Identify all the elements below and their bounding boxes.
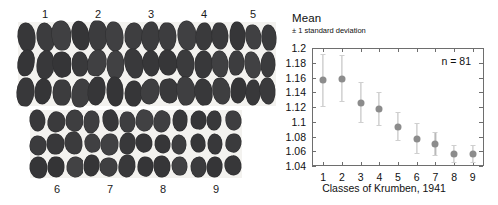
pebble [120, 112, 135, 132]
y-tick-label: 1.2 [270, 42, 306, 54]
pebble-group-7 [83, 110, 136, 178]
error-bar-cap-upper [452, 145, 457, 146]
pebble [207, 110, 222, 130]
x-tick-mark-top [435, 48, 436, 52]
y-tick-label: 1.16 [270, 72, 306, 84]
pebble [17, 49, 37, 77]
pebble [88, 20, 107, 50]
pebble [53, 80, 71, 106]
x-tick-mark-top [342, 48, 343, 52]
y-tick-mark-right [479, 92, 483, 93]
error-bar-cap-lower [321, 106, 326, 107]
y-tick-mark [312, 151, 316, 152]
error-bar-cap-upper [414, 123, 419, 124]
x-tick-mark-top [417, 48, 418, 52]
pebble [176, 50, 195, 78]
pebble [30, 136, 46, 155]
pebble [107, 50, 125, 79]
pebble-group-9 [189, 110, 242, 178]
error-bar-cap-lower [414, 153, 419, 154]
y-tick-label: 1.12 [270, 101, 306, 113]
pebble [86, 76, 107, 107]
x-tick-mark [323, 162, 324, 166]
y-tick-mark [312, 92, 316, 93]
error-bar-cap-upper [433, 132, 438, 133]
data-point [451, 151, 458, 158]
pebble [105, 22, 124, 52]
x-tick-mark [417, 162, 418, 166]
class-label-7: 7 [95, 183, 125, 195]
class-label-6: 6 [42, 183, 72, 195]
figure-root: 1 2 3 4 5 6 7 8 9 Mean ± 1 standard devi… [0, 0, 498, 205]
pebble [46, 111, 66, 134]
x-tick-mark [473, 162, 474, 166]
error-bar-cap-upper [396, 112, 401, 113]
pebble [245, 80, 260, 106]
pebble [194, 50, 212, 78]
y-tick-label: 1.14 [270, 86, 306, 98]
pebble [65, 110, 83, 132]
pebble-photo-panel: 1 2 3 4 5 6 7 8 9 [0, 0, 270, 205]
data-point [432, 140, 439, 147]
class-label-1: 1 [30, 8, 60, 20]
error-bar-cap-upper [339, 55, 344, 56]
pebble [107, 76, 124, 106]
x-tick-mark [361, 162, 362, 166]
y-tick-mark-right [479, 107, 483, 108]
x-tick-label: 8 [447, 171, 461, 183]
pebble [190, 111, 206, 131]
pebble [224, 110, 242, 131]
pebble [101, 109, 119, 132]
pebble [153, 110, 173, 134]
pebble [48, 157, 65, 177]
error-bar-cap-lower [452, 162, 457, 163]
y-tick-mark [312, 166, 316, 167]
pebble [153, 156, 171, 178]
pebble [158, 22, 176, 50]
data-point [338, 75, 345, 82]
x-tick-mark [435, 162, 436, 166]
chart-title: Mean [292, 12, 321, 24]
pebble [100, 133, 119, 156]
y-tick-mark-right [479, 48, 483, 49]
pebble [16, 78, 35, 107]
x-tick-mark [342, 162, 343, 166]
pebble [118, 154, 136, 177]
pebble [65, 156, 85, 179]
y-tick-mark-right [479, 166, 483, 167]
error-bar-cap-upper [377, 92, 382, 93]
pebble [83, 133, 101, 153]
pebble [63, 131, 83, 155]
pebble [119, 132, 137, 155]
pebble [71, 52, 88, 77]
class-label-9: 9 [201, 183, 231, 195]
pebble [172, 135, 188, 155]
pebble-group-2 [71, 22, 124, 106]
error-bar-cap-lower [358, 122, 363, 123]
pebble-group-4 [177, 22, 230, 106]
y-tick-mark [312, 107, 316, 108]
pebble [172, 156, 187, 175]
pebble [47, 133, 66, 154]
pebble [34, 78, 54, 105]
y-tick-mark-right [479, 78, 483, 79]
pebble [139, 78, 161, 105]
pebble [244, 24, 262, 50]
class-label-8: 8 [148, 183, 178, 195]
x-tick-label: 9 [466, 171, 480, 183]
data-point [469, 151, 476, 158]
error-bar-cap-upper [358, 82, 363, 83]
pebble [83, 155, 100, 178]
pebble [207, 134, 222, 154]
pebble [154, 134, 170, 153]
y-tick-label: 1.18 [270, 57, 306, 69]
pebble [124, 22, 143, 49]
data-point [413, 135, 420, 142]
pebble [158, 49, 179, 76]
x-tick-mark [398, 162, 399, 166]
x-tick-mark [454, 162, 455, 166]
pebble [229, 50, 245, 75]
pebble [189, 133, 207, 154]
pebble [135, 109, 155, 133]
error-bar-cap-upper [321, 54, 326, 55]
